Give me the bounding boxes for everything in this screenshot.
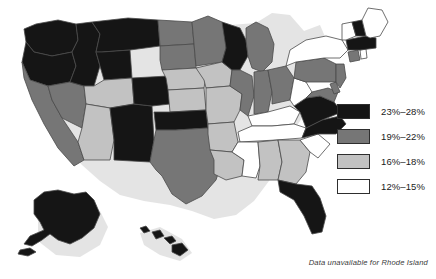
legend-label-1: 19%–22% — [381, 129, 425, 144]
state-OK[interactable] — [154, 110, 208, 130]
state-ND[interactable] — [158, 20, 194, 46]
legend: 23%–28% 19%–22% 16%–18% 12%–15% — [337, 104, 433, 204]
state-CT[interactable] — [348, 50, 360, 62]
state-NM[interactable] — [110, 104, 154, 162]
legend-label-3: 12%–15% — [381, 179, 425, 194]
legend-swatch-1 — [337, 129, 370, 144]
state-KS[interactable] — [168, 88, 206, 112]
legend-row-2[interactable]: 16%–18% — [337, 154, 433, 169]
choropleth-figure: 23%–28% 19%–22% 16%–18% 12%–15% Data una… — [0, 0, 436, 279]
footnote-rhode-island: Data unavailable for Rhode Island — [309, 258, 428, 267]
state-AL[interactable] — [258, 140, 282, 180]
legend-row-3[interactable]: 12%–15% — [337, 179, 433, 194]
state-CO[interactable] — [132, 76, 170, 106]
state-NJ[interactable] — [336, 64, 346, 88]
legend-swatch-0 — [337, 104, 370, 119]
legend-swatch-3 — [337, 179, 370, 194]
legend-row-1[interactable]: 19%–22% — [337, 129, 433, 144]
legend-row-0[interactable]: 23%–28% — [337, 104, 433, 119]
state-RI[interactable] — [360, 49, 367, 59]
state-AR[interactable] — [208, 122, 238, 152]
legend-label-0: 23%–28% — [381, 104, 425, 119]
state-MT[interactable] — [92, 18, 160, 52]
legend-label-2: 16%–18% — [381, 154, 425, 169]
state-FL[interactable] — [278, 180, 326, 234]
legend-swatch-2 — [337, 154, 370, 169]
state-SD[interactable] — [160, 44, 196, 70]
state-ME[interactable] — [362, 8, 388, 38]
